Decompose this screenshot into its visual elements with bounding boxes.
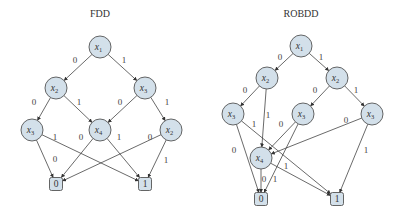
fdd-edge-x3b-to-t0	[36, 140, 53, 177]
robdd-node-x2: x2	[256, 67, 278, 89]
robdd-edge-label: 0	[243, 85, 248, 95]
fdd-edge-label: 0	[118, 97, 123, 107]
bdd-diagram-canvas: x1x2x3x3x4x201x1x2x2x3x3x3x401 FDD010101…	[0, 0, 405, 217]
robdd-terminal-1: 1	[331, 193, 344, 206]
robdd-edge-label: 1	[252, 119, 257, 129]
robdd-edge-x4-to-t1	[271, 163, 331, 195]
robdd-edge-label: 0	[232, 145, 237, 155]
robdd-edge-label: 0	[279, 119, 284, 129]
fdd-edge-label: 1	[53, 132, 58, 142]
fdd-edge-label: 0	[73, 55, 78, 65]
robdd-edge-label: 1	[266, 110, 271, 120]
fdd-edge-x1-to-x2	[64, 54, 92, 80]
fdd-edge-label: 1	[122, 55, 127, 65]
fdd-edge-label: 0	[32, 97, 37, 107]
robdd-edge-label: 0	[278, 52, 283, 62]
robdd-edge-label: 1	[354, 85, 359, 95]
robdd-edge-x3c-to-t1	[340, 124, 368, 192]
robdd-edge-label: 0	[313, 85, 318, 95]
fdd-edge-label: 1	[165, 97, 170, 107]
robdd-node-x4: x4	[250, 147, 272, 169]
fdd-node-x4: x4	[89, 119, 111, 141]
robdd-node-x2: x2	[326, 67, 348, 89]
fdd-edge-label: 0	[148, 132, 153, 142]
fdd-edge-label: 1	[77, 97, 82, 107]
terminal-label: 0	[259, 194, 264, 204]
robdd-edge-label: 0	[344, 115, 349, 125]
fdd-edge-label: 0	[53, 154, 58, 164]
fdd-edge-label: 0	[79, 132, 84, 142]
fdd-node-x2: x2	[160, 119, 182, 141]
fdd-edge-label: 1	[117, 132, 122, 142]
robdd-terminal-0: 0	[255, 193, 268, 206]
robdd-node-x3: x3	[222, 103, 244, 125]
fdd-node-x3: x3	[21, 119, 43, 141]
fdd-terminal-1: 1	[139, 178, 152, 191]
robdd-node-x1: x1	[290, 35, 312, 57]
fdd-edge-x4-to-t0	[61, 139, 93, 178]
fdd-node-x3: x3	[134, 77, 156, 99]
fdd-node-x1: x1	[89, 36, 111, 58]
robdd-edge-label: 1	[273, 174, 278, 184]
robdd-title: ROBDD	[283, 8, 318, 19]
terminal-label: 0	[54, 179, 59, 189]
fdd-edge-label: 1	[164, 155, 169, 165]
robdd-edge-label: 0	[262, 174, 267, 184]
robdd-node-x3: x3	[361, 103, 383, 125]
robdd-node-x3: x3	[292, 103, 314, 125]
terminal-label: 1	[143, 179, 148, 189]
robdd-edge-label: 1	[364, 145, 369, 155]
edges-layer	[36, 53, 367, 195]
fdd-title: FDD	[90, 8, 110, 19]
fdd-node-x2: x2	[45, 77, 67, 99]
fdd-terminal-0: 0	[50, 178, 63, 191]
labels-layer: FDD010101010101ROBDD01010101010101	[32, 8, 369, 184]
terminal-label: 1	[335, 194, 340, 204]
fdd-edge-x3-to-x4	[108, 96, 137, 123]
fdd-edge-x2-to-x3b	[37, 98, 50, 121]
robdd-edge-label: 1	[284, 161, 289, 171]
robdd-edge-label: 1	[319, 52, 324, 62]
fdd-edge-x3-to-x2b	[151, 97, 165, 120]
